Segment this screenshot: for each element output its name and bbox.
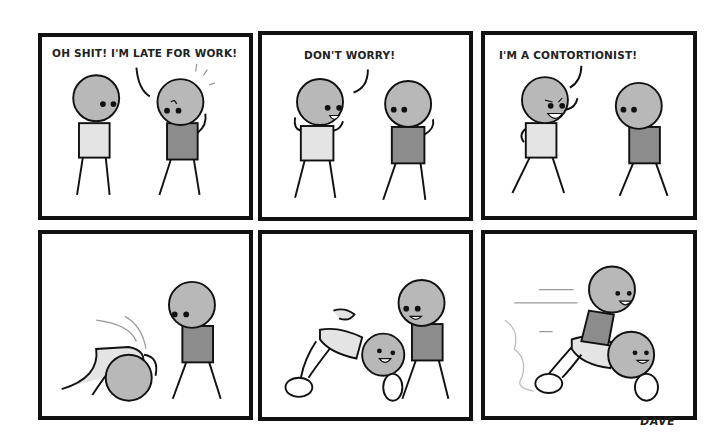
speech-text: DON'T WORRY! (304, 49, 395, 61)
figure-dark-shirt (616, 83, 668, 196)
figure-light-shirt (73, 75, 119, 195)
panel-6-art (485, 234, 693, 416)
figure-light-shirt (295, 79, 343, 198)
comic-panel-3: I'M A CONTORTIONIST! (481, 31, 697, 220)
comic-panel-5 (258, 230, 473, 421)
figure-dark-shirt (157, 64, 214, 195)
artist-signature: DAVE (639, 415, 676, 428)
panel-3-art (485, 35, 693, 216)
panel-4-art (42, 234, 249, 416)
comic-panel-1: OH SHIT! I'M LATE FOR WORK! (38, 33, 253, 220)
comic-panel-6 (481, 230, 697, 420)
figure-contorted-bike (285, 309, 404, 400)
figure-contorting (62, 316, 157, 400)
figure-dark-shirt (399, 280, 449, 399)
figure-light-shirt (512, 77, 577, 193)
panel-5-art (262, 234, 469, 417)
panel-1-art (42, 37, 249, 216)
figure-dark-shirt (169, 282, 221, 399)
figure-dark-shirt (383, 81, 433, 200)
speech-text: OH SHIT! I'M LATE FOR WORK! (52, 47, 237, 59)
comic-panel-4 (38, 230, 253, 420)
panel-2-art (262, 35, 469, 217)
speech-text: I'M A CONTORTIONIST! (499, 49, 637, 61)
comic-panel-2: DON'T WORRY! (258, 31, 473, 221)
